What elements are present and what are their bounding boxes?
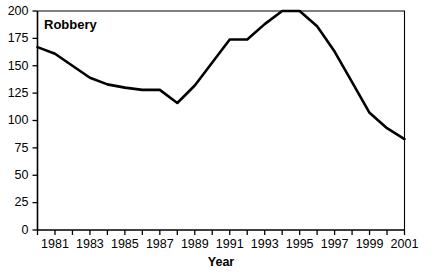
chart-figure: 0255075100125150175200 19811983198519871… xyxy=(0,0,433,275)
y-tick-label: 25 xyxy=(15,195,29,209)
x-tick-label: 1999 xyxy=(356,237,384,251)
x-tick-label: 1981 xyxy=(41,237,69,251)
y-tick-label: 75 xyxy=(15,141,29,155)
x-tick-label: 1983 xyxy=(76,237,104,251)
x-tick-label: 1989 xyxy=(181,237,209,251)
x-tick-label: 1987 xyxy=(146,237,174,251)
x-tick-label: 1997 xyxy=(321,237,349,251)
x-tick-label: 1985 xyxy=(111,237,139,251)
x-axis-title: Year xyxy=(208,255,235,269)
x-tick-label: 1991 xyxy=(216,237,244,251)
y-tick-label: 175 xyxy=(8,31,29,45)
chart-background xyxy=(0,0,433,275)
x-tick-label: 1995 xyxy=(286,237,314,251)
y-tick-label: 125 xyxy=(8,86,29,100)
x-tick-label: 1993 xyxy=(251,237,279,251)
y-tick-label: 100 xyxy=(8,113,29,127)
robbery-line-chart: 0255075100125150175200 19811983198519871… xyxy=(0,0,433,275)
x-tick-label: 2001 xyxy=(391,237,419,251)
plot-title: Robbery xyxy=(44,17,98,32)
y-tick-label: 200 xyxy=(8,4,29,18)
y-tick-label: 0 xyxy=(22,223,29,237)
y-tick-label: 50 xyxy=(15,168,29,182)
y-tick-label: 150 xyxy=(8,59,29,73)
